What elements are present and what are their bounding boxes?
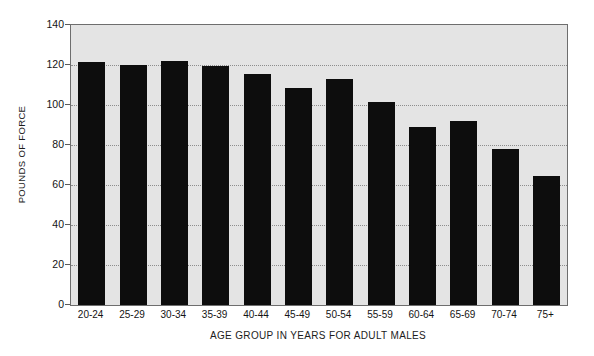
- plot-area: [70, 24, 568, 306]
- bar: [492, 149, 519, 305]
- x-axis-tick-labels: 20-2425-2930-3435-3940-4445-4950-5455-59…: [70, 309, 566, 325]
- x-axis-title: AGE GROUP IN YEARS FOR ADULT MALES: [70, 330, 566, 341]
- bar: [285, 88, 312, 305]
- y-axis-tick-label: 140: [24, 18, 64, 30]
- bar: [202, 66, 229, 305]
- y-axis-tick-label: 80: [24, 138, 64, 150]
- bar: [161, 61, 188, 305]
- y-axis-tick-label: 100: [24, 98, 64, 110]
- bar: [120, 65, 147, 305]
- bar: [533, 176, 560, 305]
- bar: [78, 62, 105, 305]
- y-axis-tick-label: 120: [24, 58, 64, 70]
- bar: [326, 79, 353, 305]
- bar-chart: POUNDS OF FORCE 020406080100120140 20-24…: [0, 0, 594, 356]
- x-axis-tick-label: 75+: [515, 309, 575, 320]
- bar: [368, 102, 395, 305]
- bar: [409, 127, 436, 305]
- y-axis-tick-label: 0: [24, 298, 64, 310]
- y-axis-tick-label: 40: [24, 218, 64, 230]
- bar: [244, 74, 271, 305]
- bars-layer: [71, 25, 567, 305]
- y-axis-tick-label: 20: [24, 258, 64, 270]
- y-axis-tick-label: 60: [24, 178, 64, 190]
- bar: [450, 121, 477, 305]
